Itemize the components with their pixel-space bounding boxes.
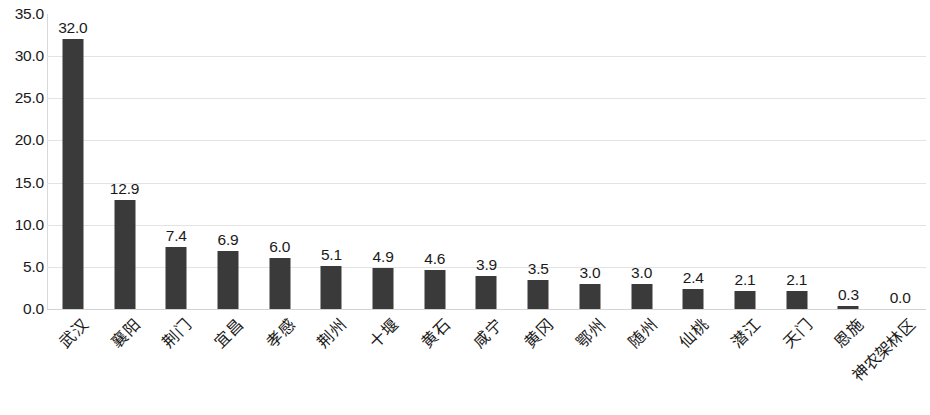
x-axis-category-text: 黄石 (418, 316, 453, 351)
bar[interactable] (683, 289, 704, 309)
x-axis-category-text: 武汉 (56, 316, 91, 351)
bar[interactable] (786, 291, 807, 309)
x-axis-category-text: 宜昌 (211, 316, 246, 351)
x-axis-category-text: 荆门 (160, 316, 195, 351)
y-tick-label: 25.0 (0, 91, 44, 107)
y-tick-label: 10.0 (0, 217, 44, 233)
x-axis-category-text: 恩施 (832, 316, 867, 351)
x-axis-category-text: 鄂州 (573, 316, 608, 351)
y-tick-label: 30.0 (0, 48, 44, 64)
bar-value-label: 32.0 (58, 20, 87, 36)
bar-chart: 0.05.010.015.020.025.030.035.0 32.012.97… (0, 0, 930, 415)
bar-group: 6.0 (254, 0, 306, 310)
bar[interactable] (735, 291, 756, 309)
bar[interactable] (631, 284, 652, 309)
bar-value-label: 0.0 (890, 290, 911, 306)
bars-layer: 32.012.97.46.96.05.14.94.63.93.53.03.02.… (47, 0, 926, 310)
x-axis-category-text: 十堰 (366, 316, 401, 351)
bar[interactable] (838, 306, 859, 309)
bar[interactable] (269, 258, 290, 309)
bar[interactable] (62, 39, 83, 309)
y-tick-label: 20.0 (0, 133, 44, 149)
bar-value-label: 4.6 (424, 251, 445, 267)
x-axis-category-text: 潜江 (728, 316, 763, 351)
bar-group: 7.4 (150, 0, 202, 310)
bar-group: 5.1 (306, 0, 358, 310)
x-axis-category-text: 孝感 (263, 316, 298, 351)
bar-value-label: 12.9 (110, 181, 139, 197)
x-axis: 武汉襄阳荆门宜昌孝感荆州十堰黄石咸宁黄冈鄂州随州仙桃潜江天门恩施神农架林区 (47, 310, 926, 415)
bar-group: 4.6 (409, 0, 461, 310)
bar-value-label: 3.0 (631, 265, 652, 281)
bar-group: 12.9 (99, 0, 151, 310)
bar-group: 0.3 (823, 0, 875, 310)
x-axis-category-text: 天门 (780, 316, 815, 351)
bar-value-label: 0.3 (838, 287, 859, 303)
bar-value-label: 3.9 (476, 257, 497, 273)
bar[interactable] (373, 268, 394, 309)
x-axis-category-text: 咸宁 (470, 316, 505, 351)
x-axis-category-text: 荆州 (315, 316, 350, 351)
bar[interactable] (579, 284, 600, 309)
bar-value-label: 7.4 (166, 228, 187, 244)
y-tick-label: 35.0 (0, 6, 44, 22)
x-axis-category-text: 襄阳 (108, 316, 143, 351)
bar-value-label: 2.1 (786, 272, 807, 288)
bar-group: 2.1 (771, 0, 823, 310)
bar-group: 6.9 (202, 0, 254, 310)
bar[interactable] (424, 270, 445, 309)
bar-group: 4.9 (357, 0, 409, 310)
y-tick-label: 15.0 (0, 175, 44, 191)
bar-value-label: 2.4 (683, 270, 704, 286)
y-tick-label: 5.0 (0, 259, 44, 275)
y-tick-label: 0.0 (0, 301, 44, 317)
bar-value-label: 5.1 (321, 247, 342, 263)
bar[interactable] (476, 276, 497, 309)
x-axis-category-text: 黄冈 (522, 316, 557, 351)
bar-group: 0.0 (874, 0, 926, 310)
bar-group: 32.0 (47, 0, 99, 310)
bar-group: 2.4 (667, 0, 719, 310)
x-axis-category-text: 仙桃 (677, 316, 712, 351)
bar[interactable] (217, 251, 238, 309)
bar[interactable] (114, 200, 135, 309)
x-axis-category-text: 随州 (625, 316, 660, 351)
bar-group: 3.5 (512, 0, 564, 310)
bar-value-label: 3.5 (528, 261, 549, 277)
bar-value-label: 6.9 (217, 232, 238, 248)
bar-group: 3.0 (616, 0, 668, 310)
bar[interactable] (321, 266, 342, 309)
bar-group: 2.1 (719, 0, 771, 310)
bar-value-label: 6.0 (269, 239, 290, 255)
bar-value-label: 4.9 (373, 249, 394, 265)
bar[interactable] (528, 280, 549, 310)
bar-group: 3.9 (461, 0, 513, 310)
bar-value-label: 2.1 (735, 272, 756, 288)
bar-value-label: 3.0 (579, 265, 600, 281)
bar-group: 3.0 (564, 0, 616, 310)
y-axis: 0.05.010.015.020.025.030.035.0 (0, 0, 44, 330)
bar[interactable] (166, 247, 187, 309)
